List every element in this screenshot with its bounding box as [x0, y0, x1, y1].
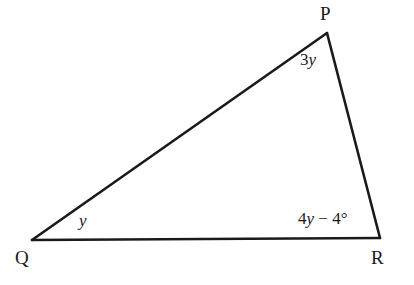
- angle-r-coefficient: 4: [298, 209, 307, 228]
- angle-label-r: 4y − 4°: [298, 210, 347, 227]
- angle-r-operator: −: [314, 209, 332, 228]
- angle-label-q: y: [79, 212, 87, 229]
- triangle-edge-pr: [327, 33, 380, 238]
- degree-symbol-icon: °: [341, 209, 348, 228]
- angle-p-coefficient: 3: [300, 50, 309, 69]
- vertex-label-r: R: [371, 248, 384, 267]
- angle-label-p: 3y: [300, 51, 316, 68]
- triangle-edge-qp: [32, 33, 327, 240]
- vertex-label-p: P: [320, 4, 331, 23]
- angle-r-constant: 4: [332, 209, 341, 228]
- triangle-shape: [0, 0, 414, 285]
- angle-q-variable: y: [79, 211, 87, 230]
- angle-r-variable: y: [307, 209, 315, 228]
- vertex-label-q: Q: [15, 248, 29, 267]
- geometry-figure: P Q R 3y y 4y − 4°: [0, 0, 414, 285]
- triangle-edge-qr: [32, 238, 380, 240]
- angle-p-variable: y: [309, 50, 317, 69]
